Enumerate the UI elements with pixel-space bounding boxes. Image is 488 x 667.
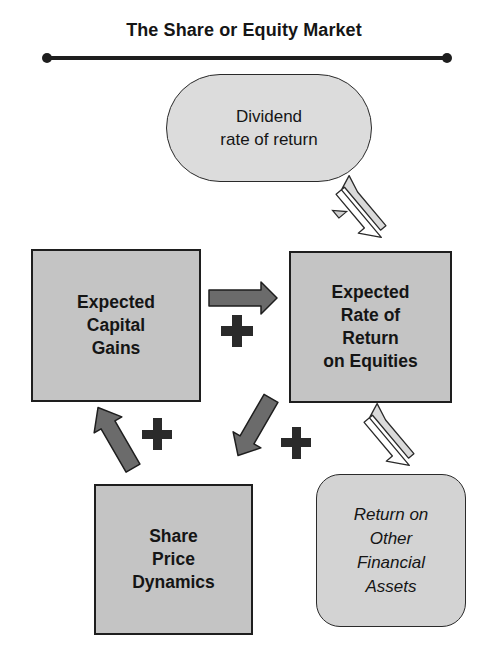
node-label: Dividend rate of return <box>220 105 317 151</box>
double-arrow-icon <box>322 176 393 251</box>
node-label: Share Price Dynamics <box>132 525 215 594</box>
arrow-up-icon <box>84 400 147 477</box>
node-other-financial-assets: Return on Other Financial Assets <box>316 474 466 627</box>
double-arrow-icon <box>354 404 421 475</box>
node-share-price-dynamics: Share Price Dynamics <box>94 484 253 635</box>
node-expected-capital-gains: Expected Capital Gains <box>31 249 201 402</box>
node-label: Expected Capital Gains <box>77 291 155 360</box>
arrow-right-icon <box>209 282 277 314</box>
arrow-down-icon <box>224 390 285 463</box>
plus-sign-icon <box>221 315 253 347</box>
node-label: Return on Other Financial Assets <box>354 503 429 599</box>
plus-sign-icon <box>142 418 172 450</box>
title-rule <box>42 53 452 63</box>
node-expected-rate-of-return: Expected Rate of Return on Equities <box>289 251 452 403</box>
node-dividend-rate: Dividend rate of return <box>166 74 372 182</box>
plus-sign-icon <box>281 427 311 459</box>
node-label: Expected Rate of Return on Equities <box>323 281 417 373</box>
